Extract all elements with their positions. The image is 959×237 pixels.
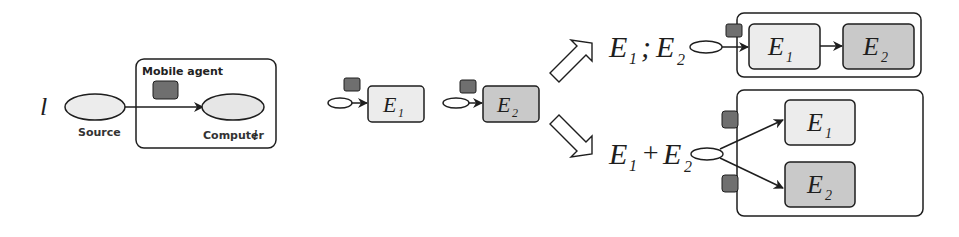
mobile-agent-label: Mobile agent	[142, 65, 223, 78]
e1-subscript: 1	[398, 106, 404, 120]
computer-node	[202, 94, 264, 120]
branch-arrow-down-icon	[550, 115, 592, 157]
par-box-e1-sub: 1	[825, 126, 832, 141]
seq-e1-box	[749, 24, 820, 69]
diagram-canvas: l Source Mobile agent Computer l E 1 E 2…	[0, 0, 959, 237]
input-node	[443, 98, 469, 108]
left-panel: l Source Mobile agent Computer l	[40, 59, 276, 148]
sequential-composition: E 1 ; E 2 E 1 E 2	[608, 13, 921, 77]
input-node	[328, 98, 352, 108]
agent-icon	[722, 111, 738, 128]
source-label: Source	[78, 126, 121, 139]
branch-arrow-up-icon	[550, 40, 592, 82]
e2-label: E	[496, 92, 511, 117]
input-node	[691, 148, 723, 160]
par-e1-sub: 1	[629, 157, 637, 174]
mobile-agent-icon	[153, 81, 178, 99]
par-operator: +	[641, 137, 660, 168]
parallel-composition: E 1 + E 2 E 1 E 2	[608, 90, 923, 216]
e2-subscript: 2	[512, 106, 518, 120]
seq-box-e2-label: E	[862, 32, 879, 61]
seq-e1-sub: 1	[629, 50, 637, 67]
middle-panel-e2: E 2	[443, 80, 539, 122]
seq-box-e2-sub: 2	[881, 50, 888, 65]
par-box-e1-label: E	[806, 108, 823, 137]
input-node	[690, 41, 722, 53]
seq-box-e1-label: E	[767, 32, 784, 61]
par-e2-sub: 2	[684, 158, 692, 175]
seq-e2-sub: 2	[677, 51, 685, 68]
par-e1: E	[608, 137, 627, 170]
computer-symbol: l	[253, 127, 257, 143]
seq-box-e1-sub: 1	[786, 50, 793, 65]
e2-box	[483, 86, 539, 122]
par-box-e2-label: E	[806, 170, 823, 199]
agent-icon	[460, 80, 476, 93]
seq-e2: E	[655, 30, 674, 63]
source-node	[65, 94, 125, 120]
seq-e1: E	[608, 30, 627, 63]
middle-panel-e1: E 1	[328, 78, 424, 122]
source-symbol: l	[40, 92, 47, 121]
par-e2: E	[662, 137, 681, 170]
e1-label: E	[382, 92, 397, 117]
agent-icon	[722, 175, 738, 192]
seq-operator: ;	[641, 30, 651, 63]
par-box-e2-sub: 2	[825, 188, 832, 203]
agent-icon	[344, 78, 360, 91]
agent-icon	[726, 24, 742, 37]
